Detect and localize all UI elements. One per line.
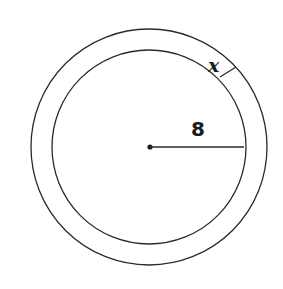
radius-label: 8 — [191, 117, 205, 141]
circle-diagram: 8 x — [0, 0, 283, 289]
ring-width-marker — [220, 67, 236, 77]
ring-width-label: x — [207, 54, 220, 76]
